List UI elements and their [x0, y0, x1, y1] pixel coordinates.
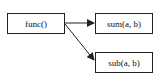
node-sub-label: sub(a, b)	[108, 58, 140, 68]
node-sub: sub(a, b)	[95, 52, 153, 73]
node-sum: sum(a, b)	[95, 13, 153, 34]
node-func-label: func()	[25, 19, 47, 29]
node-func: func()	[7, 13, 65, 34]
node-sum-label: sum(a, b)	[107, 19, 141, 29]
edge-func-to-sub	[65, 24, 94, 60]
